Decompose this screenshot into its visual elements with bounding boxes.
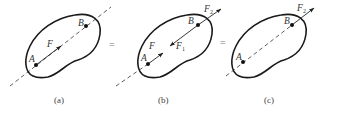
force-transmissibility-diagram: A B F (a) = A B F F 1 F 2 (b) = A B F 2 … bbox=[0, 0, 357, 120]
caption-c: (c) bbox=[264, 95, 274, 105]
caption-b: (b) bbox=[158, 95, 169, 105]
force-arrow-F1 bbox=[170, 25, 198, 46]
label-F2: F bbox=[296, 3, 303, 13]
line-of-action-c bbox=[226, 25, 292, 76]
panel-a: A B F (a) bbox=[10, 7, 111, 105]
label-A: A bbox=[140, 53, 147, 63]
point-B-dot bbox=[290, 23, 294, 27]
label-F2: F bbox=[203, 4, 210, 14]
point-B-dot bbox=[84, 24, 88, 28]
label-F1-subscript: 1 bbox=[182, 46, 185, 52]
label-F2-subscript: 2 bbox=[210, 9, 213, 15]
label-F: F bbox=[148, 41, 155, 51]
equals-sign-2: = bbox=[220, 37, 226, 48]
label-F1: F bbox=[175, 41, 182, 51]
label-B: B bbox=[78, 18, 84, 28]
label-A: A bbox=[235, 52, 242, 62]
label-B: B bbox=[188, 16, 194, 26]
label-B: B bbox=[284, 16, 290, 26]
rigid-body-c bbox=[232, 14, 306, 77]
label-F2-subscript: 2 bbox=[303, 8, 306, 14]
panel-c: A B F 2 (c) bbox=[226, 3, 314, 105]
equals-sign-1: = bbox=[109, 39, 115, 50]
label-A: A bbox=[28, 54, 35, 64]
force-arrow-F bbox=[148, 53, 163, 64]
panel-b: A B F F 1 F 2 (b) bbox=[116, 4, 221, 105]
label-F: F bbox=[46, 39, 53, 49]
caption-a: (a) bbox=[54, 95, 64, 105]
point-B-dot bbox=[196, 23, 200, 27]
